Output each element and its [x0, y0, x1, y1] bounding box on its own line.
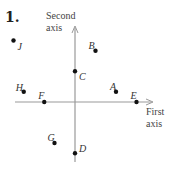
- x-axis-label-line1: First: [146, 106, 164, 118]
- y-axis-label-line2: axis: [46, 22, 75, 34]
- y-axis-label: Second axis: [46, 10, 75, 34]
- point-c: [73, 69, 77, 73]
- point-j: [11, 38, 15, 42]
- point-label-c: C: [79, 72, 86, 82]
- x-axis-label: First axis: [146, 106, 164, 130]
- point-label-d: D: [79, 144, 86, 154]
- point-label-h: H: [16, 83, 23, 93]
- point-label-j: J: [18, 42, 22, 52]
- point-label-f: F: [38, 91, 44, 101]
- point-label-b: B: [89, 41, 95, 51]
- x-axis-label-line2: axis: [146, 118, 164, 130]
- point-label-a: A: [110, 82, 116, 92]
- y-axis-label-line1: Second: [46, 10, 75, 22]
- point-label-g: G: [48, 133, 55, 143]
- point-label-e: E: [131, 91, 137, 101]
- coordinate-plane: [0, 0, 183, 172]
- point-d: [73, 151, 77, 155]
